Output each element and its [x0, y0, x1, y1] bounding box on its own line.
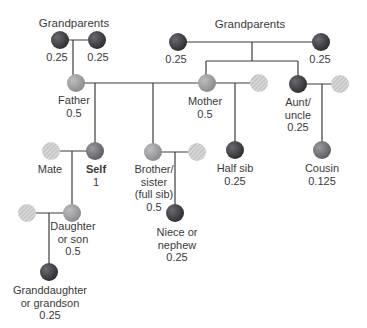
brother-sister-label: Brother/ sister (full sib) 0.5 [134, 163, 173, 213]
maternal-grandparent-2-value: 0.25 [309, 53, 330, 66]
brother-sister-name-1: Brother/ [134, 163, 173, 176]
grandchild-name-2: or grandson [13, 297, 87, 310]
paternal-grandparent-1-node [51, 31, 69, 49]
grandchild-value: 0.25 [13, 309, 87, 322]
self-node [86, 142, 104, 160]
mother-name: Mother [188, 95, 222, 108]
paternal-grandparent-2-node [88, 31, 106, 49]
brother-sister-name-2: sister [134, 176, 173, 189]
self-value: 1 [86, 176, 106, 189]
maternal-grandparent-1-value: 0.25 [165, 53, 186, 66]
aunt-mate-node [331, 75, 349, 93]
niece-nephew-value: 0.25 [157, 251, 198, 264]
daughter-son-label: Daughter or son 0.5 [50, 220, 95, 258]
mate-node [42, 142, 60, 160]
niece-nephew-name-2: nephew [157, 239, 198, 252]
brother-mate-node [188, 143, 206, 161]
aunt-uncle-label: Aunt/ uncle 0.25 [285, 96, 311, 134]
mother-label: Mother 0.5 [188, 95, 222, 120]
grandchild-node [40, 263, 58, 281]
aunt-uncle-node [289, 75, 307, 93]
brother-sister-value: 0.5 [134, 201, 173, 214]
aunt-uncle-value: 0.25 [285, 121, 311, 134]
daughter-son-value: 0.5 [50, 245, 95, 258]
mother-value: 0.5 [188, 108, 222, 121]
half-sib-name: Half sib [217, 162, 254, 175]
brother-sister-name-3: (full sib) [134, 188, 173, 201]
half-sib-label: Half sib 0.25 [217, 162, 254, 187]
niece-nephew-name-1: Niece or [157, 226, 198, 239]
father-label: Father 0.5 [58, 94, 90, 119]
maternal-grandparent-2-node [312, 33, 330, 51]
cousin-name: Cousin [305, 162, 339, 175]
paternal-grandparents-label: Grandparents [39, 17, 109, 30]
daughter-son-name-1: Daughter [50, 220, 95, 233]
father-node [67, 74, 85, 92]
grandchild-label: Granddaughter or grandson 0.25 [13, 284, 87, 322]
self-name: Self [86, 163, 106, 176]
cousin-label: Cousin 0.125 [305, 162, 339, 187]
mate-label: Mate [38, 163, 62, 176]
niece-nephew-label: Niece or nephew 0.25 [157, 226, 198, 264]
father-name: Father [58, 94, 90, 107]
mother-mate-node [250, 74, 268, 92]
half-sib-value: 0.25 [217, 175, 254, 188]
maternal-grandparent-1-node [169, 33, 187, 51]
father-value: 0.5 [58, 107, 90, 120]
grandchild-name-1: Granddaughter [13, 284, 87, 297]
paternal-grandparent-2-value: 0.25 [87, 51, 108, 64]
aunt-uncle-name-2: uncle [285, 109, 311, 122]
half-sib-node [226, 141, 244, 159]
cousin-value: 0.125 [305, 175, 339, 188]
aunt-uncle-name-1: Aunt/ [285, 96, 311, 109]
mother-node [198, 74, 216, 92]
mate-name: Mate [38, 163, 62, 176]
daughter-son-name-2: or son [50, 233, 95, 246]
brother-sister-node [144, 143, 162, 161]
self-label: Self 1 [86, 163, 106, 188]
maternal-grandparents-label: Grandparents [215, 18, 285, 31]
child-mate-node [18, 204, 36, 222]
cousin-node [313, 141, 331, 159]
paternal-grandparent-1-value: 0.25 [46, 51, 67, 64]
